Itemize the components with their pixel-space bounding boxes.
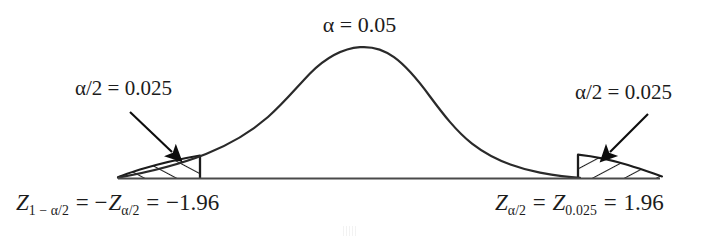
z-right-expression: Zα/2 = Z0.025 = 1.96 xyxy=(495,191,664,214)
z-symbol: Z xyxy=(109,190,122,215)
z-right-subscript-2: 0.025 xyxy=(565,203,597,218)
scan-artifact xyxy=(343,226,357,236)
z-left-subscript-2: α/2 xyxy=(121,203,139,218)
alpha-total-label: α = 0.05 xyxy=(0,14,719,36)
equals-sign: = xyxy=(597,190,623,215)
alpha-symbol: α xyxy=(323,12,335,37)
equals-sign: = xyxy=(526,190,552,215)
equals-sign: = xyxy=(140,190,166,215)
z-left-value: −1.96 xyxy=(166,190,219,215)
z-symbol: Z xyxy=(16,190,29,215)
left-annotation-arrow xyxy=(130,112,172,152)
z-left-expression: Z1 − α/2 = −Zα/2 = −1.96 xyxy=(16,191,219,214)
equals-sign: = − xyxy=(69,190,108,215)
z-right-value: 1.96 xyxy=(623,190,663,215)
z-right-subscript: α/2 xyxy=(508,203,526,218)
z-left-subscript: 1 − α/2 xyxy=(29,203,69,218)
right-annotation-arrow xyxy=(610,114,648,152)
z-symbol: Z xyxy=(495,190,508,215)
alpha-symbol: α xyxy=(75,76,86,100)
normal-distribution-figure: α = 0.05 α/2 = 0.025 α/2 = 0.025 Z1 − α/… xyxy=(0,0,719,239)
alpha-symbol: α xyxy=(575,80,586,104)
alpha-half-left-value: /2 = 0.025 xyxy=(86,76,172,100)
z-symbol: Z xyxy=(553,190,566,215)
alpha-half-left-label: α/2 = 0.025 xyxy=(75,78,172,99)
alpha-half-right-value: /2 = 0.025 xyxy=(586,80,672,104)
alpha-half-right-label: α/2 = 0.025 xyxy=(575,82,672,103)
alpha-total-value: = 0.05 xyxy=(334,12,396,37)
